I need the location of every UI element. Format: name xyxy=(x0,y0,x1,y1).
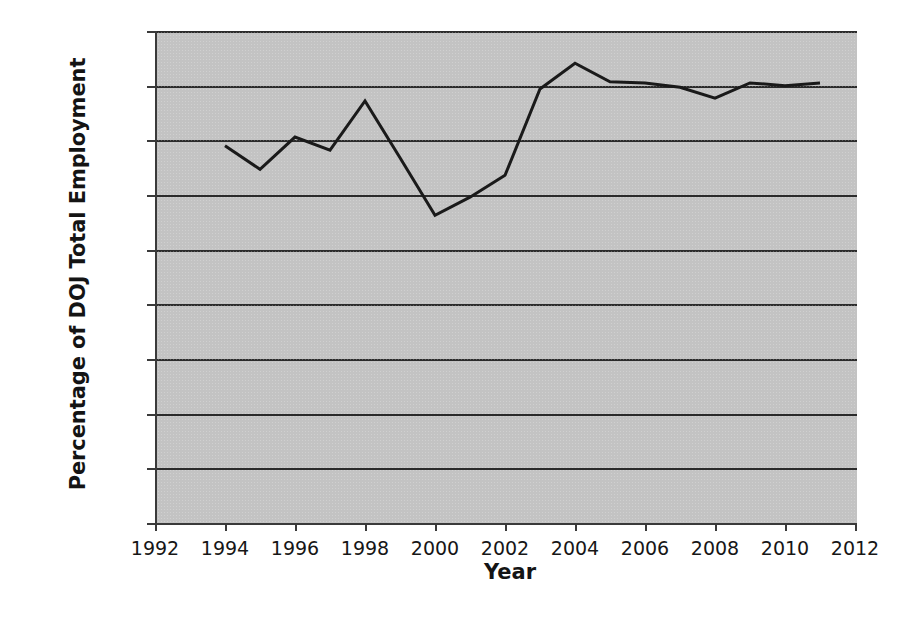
data-line-series xyxy=(0,0,918,617)
chart-figure: Percentage of DOJ Total Employment Year … xyxy=(0,0,918,617)
